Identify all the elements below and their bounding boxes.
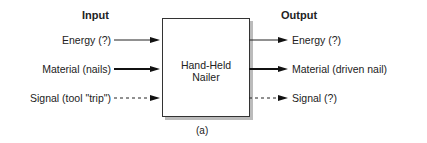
arrow-head-icon bbox=[278, 66, 288, 72]
arrow-head-icon bbox=[150, 66, 160, 72]
arrow-head-icon bbox=[150, 95, 160, 101]
arrow-head-icon bbox=[278, 37, 288, 43]
arrow-head-icon bbox=[150, 37, 160, 43]
output-material-label: Material (driven nail) bbox=[292, 63, 387, 75]
output-energy-label: Energy (?) bbox=[292, 34, 341, 46]
arrow-head-icon bbox=[278, 95, 288, 101]
output-signal-label: Signal (?) bbox=[292, 92, 337, 104]
figure-caption: (a) bbox=[196, 125, 208, 136]
